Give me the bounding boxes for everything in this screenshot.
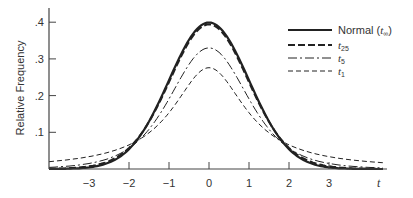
x-tick-label: 1 — [246, 177, 252, 189]
legend-label: Normal (t∞) — [338, 24, 392, 37]
x-ticks: −3−2−10123 — [83, 162, 332, 189]
x-axis-label: t — [377, 176, 381, 190]
legend-label: t1 — [338, 65, 345, 78]
x-tick-label: −3 — [83, 177, 96, 189]
x-tick-label: 0 — [206, 177, 212, 189]
curves — [49, 23, 383, 169]
y-tick-label: .4 — [35, 16, 44, 28]
y-ticks: .1.2.3.4 — [35, 16, 56, 138]
y-tick-label: .2 — [35, 90, 44, 102]
t-distribution-chart: .1.2.3.4 −3−2−10123 Relative Frequency t… — [0, 0, 413, 198]
curve-t1 — [49, 68, 383, 163]
curve-t5 — [49, 48, 383, 168]
legend-label: t25 — [338, 39, 349, 52]
legend-label: t5 — [338, 52, 345, 65]
y-tick-label: .3 — [35, 53, 44, 65]
y-axis-label: Relative Frequency — [14, 40, 26, 135]
x-tick-label: −1 — [163, 177, 176, 189]
x-tick-label: 2 — [286, 177, 292, 189]
x-tick-label: 3 — [326, 177, 332, 189]
curve-t25 — [49, 24, 383, 169]
curve-normalt — [49, 23, 383, 169]
x-tick-label: −2 — [123, 177, 136, 189]
y-tick-label: .1 — [35, 126, 44, 138]
legend: Normal (t∞)t25t5t1 — [288, 24, 392, 78]
